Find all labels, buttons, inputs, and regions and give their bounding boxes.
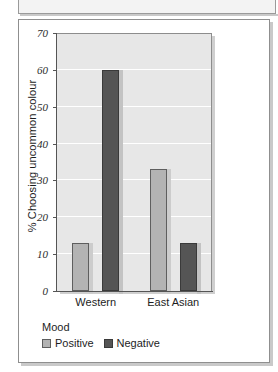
legend-item-negative[interactable]: Negative — [104, 337, 160, 349]
bar-east-asian-negative[interactable] — [180, 243, 197, 291]
y-axis-tick-mark — [53, 144, 57, 145]
legend-title: Mood — [42, 321, 160, 333]
y-axis-tick-mark — [53, 70, 57, 71]
plot-shadow-right — [212, 36, 215, 294]
plot-area — [57, 33, 212, 291]
y-axis-tick-mark — [53, 107, 57, 108]
x-axis-tick-label: Western — [51, 296, 141, 308]
y-axis-title: % Choosing uncommon colour — [26, 46, 38, 266]
bar-shadow — [167, 169, 171, 294]
gridline — [57, 69, 211, 70]
x-axis-tick-label: East Asian — [128, 296, 218, 308]
gridline — [57, 143, 211, 144]
y-axis-tick-mark — [53, 33, 57, 34]
legend-swatch-icon — [104, 339, 113, 348]
legend-item-positive[interactable]: Positive — [42, 337, 94, 349]
gridline — [57, 179, 211, 180]
bar-western-positive[interactable] — [72, 243, 89, 291]
legend-item-label: Negative — [117, 337, 160, 349]
y-axis-tick-label: 70 — [22, 28, 48, 38]
bar-shadow — [89, 243, 93, 294]
y-axis-tick-mark — [53, 217, 57, 218]
legend-entry-list: PositiveNegative — [42, 337, 160, 349]
legend-item-label: Positive — [55, 337, 94, 349]
bar-western-negative[interactable] — [102, 70, 119, 291]
legend-swatch-icon — [42, 339, 51, 348]
figure-root: 706050403020100 WesternEast Asian % Choo… — [0, 0, 278, 372]
gridline — [57, 106, 211, 107]
chart-legend: Mood PositiveNegative — [42, 321, 160, 349]
y-axis-tick-mark — [53, 180, 57, 181]
y-axis-tick-mark — [53, 254, 57, 255]
x-axis-line — [56, 291, 213, 292]
bar-shadow — [119, 70, 123, 294]
y-axis-tick-label: 0 — [22, 286, 48, 296]
gridline — [57, 216, 211, 217]
y-axis-tick-mark — [53, 291, 57, 292]
chart-canvas: 706050403020100 WesternEast Asian % Choo… — [0, 0, 278, 372]
bar-east-asian-positive[interactable] — [150, 169, 167, 291]
y-axis-line — [56, 33, 57, 292]
bar-shadow — [197, 243, 201, 294]
